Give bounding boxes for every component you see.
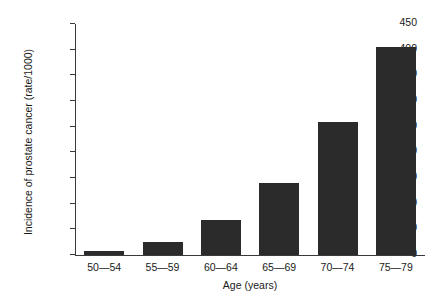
bar — [376, 47, 416, 255]
y-axis-tick: 150 — [75, 177, 425, 178]
y-axis-tick-mark — [70, 177, 75, 178]
x-axis-tick-label: 75—79 — [367, 261, 425, 274]
bar-chart-figure: Incidence of prostate cancer (rate/1000)… — [0, 0, 432, 306]
y-axis-tick-mark — [70, 254, 75, 255]
bar — [143, 242, 183, 255]
y-axis-tick: 450 — [75, 23, 425, 24]
x-axis-tick-label: 60—64 — [192, 261, 250, 274]
y-axis-tick: 0 — [75, 254, 425, 255]
y-axis-tick: 300 — [75, 100, 425, 101]
y-axis-title: Incidence of prostate cancer (rate/1000) — [20, 22, 36, 262]
y-axis-tick-label: 450 — [399, 16, 417, 29]
y-axis-tick: 50 — [75, 228, 425, 229]
y-axis-tick: 350 — [75, 74, 425, 75]
x-axis-tick-label: 50—54 — [75, 261, 133, 274]
x-axis-tick-label: 55—59 — [133, 261, 191, 274]
x-axis-line — [75, 255, 425, 256]
bar — [259, 183, 299, 255]
y-axis-tick: 100 — [75, 203, 425, 204]
x-axis-title: Age (years) — [75, 278, 425, 292]
y-axis-tick-mark — [70, 126, 75, 127]
y-axis-tick-mark — [70, 100, 75, 101]
y-axis-tick-mark — [70, 203, 75, 204]
y-axis-tick: 200 — [75, 151, 425, 152]
plot-area: 050100150200250300350400450 50—5455—5960… — [75, 24, 425, 255]
y-axis-tick-mark — [70, 74, 75, 75]
bar — [201, 220, 241, 255]
y-axis-tick-mark — [70, 151, 75, 152]
bar — [318, 122, 358, 255]
x-axis-tick-label: 70—74 — [308, 261, 366, 274]
bar — [84, 251, 124, 255]
y-axis-tick-mark — [70, 49, 75, 50]
y-axis-tick-mark — [70, 23, 75, 24]
x-axis-tick-label: 65—69 — [250, 261, 308, 274]
y-axis-tick: 400 — [75, 49, 425, 50]
y-axis-tick-mark — [70, 228, 75, 229]
y-axis-line — [75, 24, 76, 255]
y-axis-tick: 250 — [75, 126, 425, 127]
